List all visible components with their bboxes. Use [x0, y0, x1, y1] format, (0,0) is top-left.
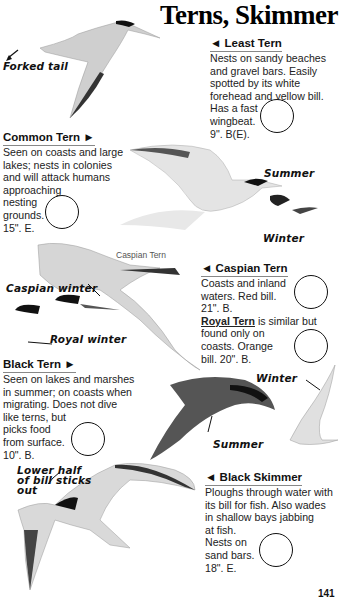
label-caspian-caption: Caspian Tern — [116, 250, 166, 260]
text-line: its bill for fish. Also wades — [205, 499, 341, 512]
skimmer-note-line: out — [17, 485, 92, 495]
arrow-right-icon: ► — [64, 358, 75, 370]
page-number: 141 — [318, 588, 335, 599]
text-line: approaching — [3, 184, 133, 197]
arrow-right-icon: ► — [83, 131, 94, 143]
arrow-left-icon: ◄ — [205, 471, 216, 483]
text-line: lakes; nests in colonies — [3, 159, 133, 172]
text-line: and will attack humans — [3, 171, 133, 184]
species-name: Caspian Tern — [216, 262, 288, 274]
text-line: Seen on coasts and large — [3, 146, 133, 159]
arrow-left-icon: ◄ — [201, 262, 212, 274]
label-summer-black: Summer — [213, 438, 263, 450]
text-line: 10". B. — [3, 449, 143, 462]
checklist-circle[interactable] — [294, 329, 328, 363]
species-heading: Black Tern ► — [3, 357, 76, 373]
checklist-circle[interactable] — [294, 275, 328, 309]
label-winter-black: Winter — [256, 372, 297, 384]
label-royal-winter: Royal winter — [50, 333, 126, 345]
text-fragment: is similar but — [255, 315, 317, 327]
text-line: like terns, but — [3, 411, 143, 424]
species-name: Common Tern — [3, 131, 80, 143]
text-line: migrating. Does not dive — [3, 398, 143, 411]
checklist-circle[interactable] — [71, 422, 105, 456]
label-skimmer-note: Lower half of bill sticks out — [17, 465, 92, 495]
species-heading: ◄ Least Tern — [210, 36, 282, 52]
text-line: in shallow bays jabbing — [205, 511, 341, 524]
arrow-left-icon: ◄ — [210, 37, 221, 49]
text-line: Ploughs through water with — [205, 486, 341, 499]
species-heading: ◄ Caspian Tern — [201, 261, 288, 277]
text-line: spotted by its white — [210, 77, 338, 90]
species-name: Black Skimmer — [220, 471, 302, 483]
royal-tern-name: Royal Tern — [201, 315, 255, 327]
text-line: in summer; on coasts when — [3, 386, 143, 399]
label-caspian-winter: Caspian winter — [6, 282, 97, 294]
checklist-circle[interactable] — [259, 533, 293, 567]
checklist-circle[interactable] — [45, 195, 79, 229]
text-line: Nests on sandy beaches — [210, 52, 338, 65]
text-line: Royal Tern is similar but — [201, 315, 339, 328]
species-heading: ◄ Black Skimmer — [205, 470, 302, 486]
species-heading: Common Tern ► — [3, 130, 95, 146]
species-name: Black Tern — [3, 358, 61, 370]
checklist-circle[interactable] — [260, 99, 294, 133]
text-line: Seen on lakes and marshes — [3, 373, 143, 386]
label-summer-common: Summer — [264, 167, 314, 179]
label-winter-common: Winter — [263, 232, 304, 244]
label-forked-tail: Forked tail — [3, 60, 68, 72]
species-name: Least Tern — [225, 37, 282, 49]
text-line: and gravel bars. Easily — [210, 65, 338, 78]
